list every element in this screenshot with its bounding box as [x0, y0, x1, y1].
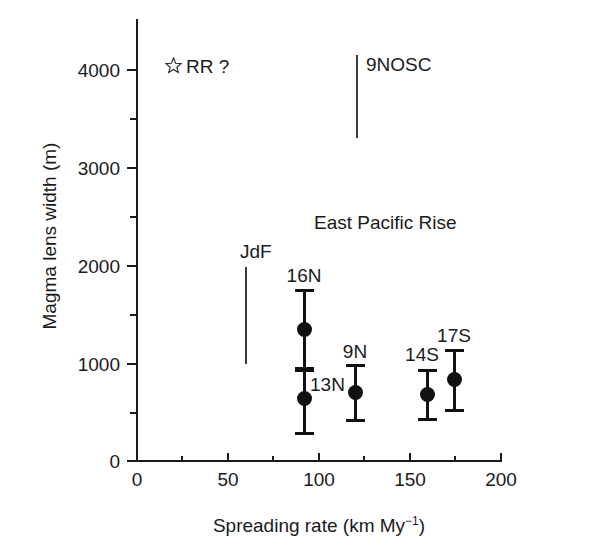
rr-annotation-label: RR ? [186, 57, 229, 76]
x-minor-tick-75 [272, 456, 274, 462]
marker-17s[interactable] [447, 372, 462, 387]
y-axis-spine [136, 19, 138, 462]
x-ticklabel-150: 150 [370, 470, 450, 489]
x-axis-title-end: ) [419, 515, 425, 536]
y-axis-title: Magma lens width (m) [39, 86, 61, 386]
east-pacific-rise-label: East Pacific Rise [314, 213, 457, 232]
errorbar-cap-upper-13n [295, 367, 314, 370]
errorbar-cap-upper-9n [346, 364, 365, 367]
x-axis-title-exponent: −1 [405, 514, 419, 528]
9nosc-range-line [356, 55, 358, 138]
y-minor-tick-1500 [130, 314, 136, 316]
y-tick-4000 [127, 69, 136, 71]
x-ticklabel-200: 200 [461, 470, 541, 489]
y-tick-3000 [127, 167, 136, 169]
9nosc-annotation-label: 9NOSC [366, 55, 431, 74]
jdf-annotation-label: JdF [240, 242, 272, 261]
x-ticklabel-100: 100 [279, 470, 359, 489]
x-minor-tick-175 [454, 456, 456, 462]
y-minor-tick-3500 [130, 118, 136, 120]
y-ticklabel-0: 0 [50, 452, 120, 471]
y-minor-tick-500 [130, 412, 136, 414]
marker-9n[interactable] [348, 385, 363, 400]
errorbar-cap-lower-9n [346, 419, 365, 422]
errorbar-cap-upper-17s [445, 349, 464, 352]
jdf-range-line [245, 267, 247, 364]
errorbar-cap-lower-14s [418, 418, 437, 421]
y-minor-tick-2500 [130, 216, 136, 218]
x-tick-0 [136, 453, 138, 462]
x-tick-50 [227, 453, 229, 462]
datapoint-label-17s: 17S [427, 326, 481, 345]
y-tick-0 [127, 460, 136, 462]
errorbar-cap-upper-16n [295, 289, 314, 292]
x-tick-200 [500, 453, 502, 462]
open-star-icon [165, 57, 182, 74]
y-ticklabel-4000: 4000 [50, 61, 120, 80]
datapoint-label-16n: 16N [277, 266, 331, 285]
x-tick-100 [318, 453, 320, 462]
magma-lens-width-scatter-chart: 0 1000 2000 3000 4000 0 50 100 150 200 M… [0, 0, 599, 557]
y-tick-2000 [127, 265, 136, 267]
y-tick-1000 [127, 363, 136, 365]
errorbar-cap-lower-17s [445, 409, 464, 412]
x-tick-150 [409, 453, 411, 462]
x-ticklabel-50: 50 [188, 470, 268, 489]
x-axis-title: Spreading rate (km My−1) [136, 515, 502, 537]
x-axis-title-main: Spreading rate (km My [213, 515, 405, 536]
marker-16n[interactable] [297, 322, 312, 337]
datapoint-label-9n: 9N [333, 342, 377, 361]
x-minor-tick-25 [181, 456, 183, 462]
errorbar-cap-upper-14s [418, 369, 437, 372]
marker-14s[interactable] [420, 387, 435, 402]
x-minor-tick-125 [363, 456, 365, 462]
x-ticklabel-0: 0 [97, 470, 177, 489]
errorbar-cap-lower-13n [295, 432, 314, 435]
datapoint-label-14s: 14S [395, 345, 449, 364]
